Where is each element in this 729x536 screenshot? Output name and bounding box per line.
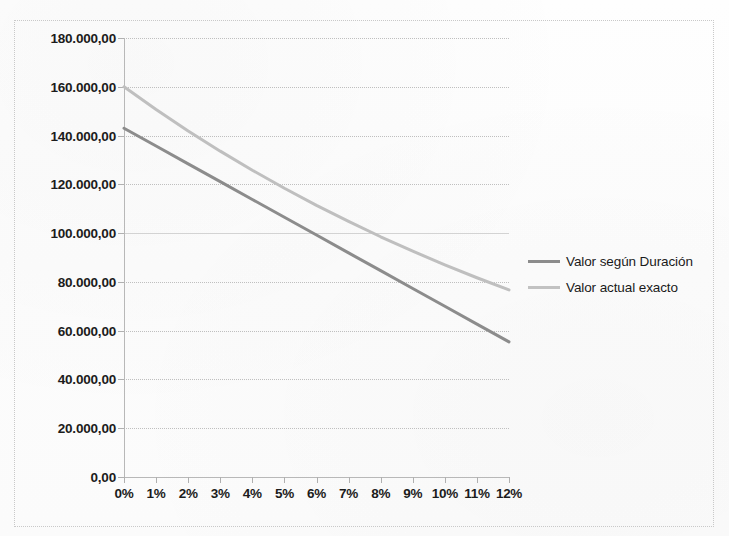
x-tick-mark: [124, 477, 125, 483]
y-tick-label: 160.000,00: [4, 79, 116, 94]
y-tick-label: 180.000,00: [4, 31, 116, 46]
gridline: [124, 379, 509, 380]
y-axis-labels: 0,0020.000,0040.000,0060.000,0080.000,00…: [0, 0, 116, 536]
x-tick-mark: [156, 477, 157, 483]
y-tick-mark: [118, 87, 124, 88]
y-tick-label: 0,00: [4, 470, 116, 485]
y-tick-mark: [118, 38, 124, 39]
legend-line-icon: [528, 260, 560, 263]
x-tick-mark: [509, 477, 510, 483]
legend-line-icon: [528, 286, 560, 289]
y-tick-mark: [118, 282, 124, 283]
x-tick-mark: [381, 477, 382, 483]
y-tick-label: 20.000,00: [4, 421, 116, 436]
y-tick-label: 40.000,00: [4, 372, 116, 387]
y-tick-mark: [118, 233, 124, 234]
legend-item-1[interactable]: Valor según Duración: [528, 248, 708, 274]
y-tick-label: 100.000,00: [4, 226, 116, 241]
y-tick-label: 80.000,00: [4, 274, 116, 289]
x-tick-mark: [284, 477, 285, 483]
x-tick-mark: [317, 477, 318, 483]
gridline: [124, 331, 509, 332]
x-tick-mark: [477, 477, 478, 483]
x-tick-label: 12%: [489, 486, 529, 501]
x-tick-mark: [220, 477, 221, 483]
y-tick-mark: [118, 136, 124, 137]
gridline: [124, 233, 509, 234]
x-tick-mark: [445, 477, 446, 483]
x-tick-mark: [349, 477, 350, 483]
legend-item-label: Valor actual exacto: [566, 280, 678, 295]
legend-item-label: Valor según Duración: [566, 254, 693, 269]
y-tick-mark: [118, 379, 124, 380]
y-tick-label: 60.000,00: [4, 323, 116, 338]
y-tick-mark: [118, 331, 124, 332]
gridline: [124, 136, 509, 137]
y-tick-mark: [118, 184, 124, 185]
gridline: [124, 428, 509, 429]
y-tick-mark: [118, 428, 124, 429]
gridline: [124, 87, 509, 88]
x-tick-mark: [252, 477, 253, 483]
legend-item-2[interactable]: Valor actual exacto: [528, 274, 708, 300]
gridline: [124, 184, 509, 185]
gridline: [124, 38, 509, 39]
x-tick-mark: [413, 477, 414, 483]
chart-screenshot: 0,0020.000,0040.000,0060.000,0080.000,00…: [0, 0, 729, 536]
y-tick-label: 120.000,00: [4, 177, 116, 192]
y-axis-line: [124, 38, 125, 477]
x-tick-mark: [188, 477, 189, 483]
gridline: [124, 282, 509, 283]
chart-legend: Valor según DuraciónValor actual exacto: [528, 248, 708, 300]
y-tick-label: 140.000,00: [4, 128, 116, 143]
